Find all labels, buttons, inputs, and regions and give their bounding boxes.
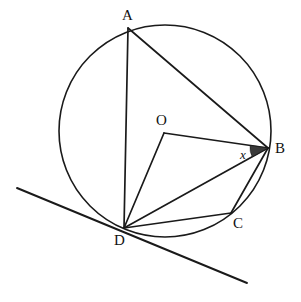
geometry-figure: A B C D O x bbox=[0, 0, 301, 302]
chord-DB bbox=[124, 148, 268, 228]
point-label-D: D bbox=[114, 232, 125, 248]
geometry-canvas: A B C D O x bbox=[0, 0, 301, 302]
angle-label-x: x bbox=[239, 147, 246, 162]
point-label-C: C bbox=[233, 215, 243, 231]
point-label-O: O bbox=[156, 112, 167, 128]
tangent-line-at-D bbox=[17, 188, 247, 283]
point-label-B: B bbox=[275, 140, 285, 156]
chord-AD bbox=[124, 28, 128, 228]
chord-AB bbox=[128, 28, 268, 148]
point-label-A: A bbox=[122, 7, 133, 23]
chord-DC bbox=[124, 213, 231, 228]
radius-OD bbox=[124, 133, 164, 228]
